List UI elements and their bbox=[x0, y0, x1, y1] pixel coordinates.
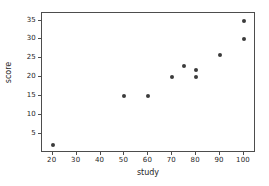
y-tick-mark bbox=[38, 20, 41, 21]
x-tick-label: 40 bbox=[88, 156, 112, 164]
x-tick-label: 60 bbox=[135, 156, 159, 164]
x-tick-label: 20 bbox=[40, 156, 64, 164]
data-point bbox=[122, 94, 126, 98]
y-tick-label: 25 bbox=[14, 53, 36, 61]
y-axis-label: score bbox=[4, 43, 13, 103]
x-tick-mark bbox=[76, 152, 77, 155]
x-tick-label: 50 bbox=[111, 156, 135, 164]
data-point bbox=[170, 75, 174, 79]
data-point bbox=[218, 53, 222, 57]
data-point bbox=[51, 143, 55, 147]
data-point bbox=[194, 68, 198, 72]
y-tick-mark bbox=[38, 133, 41, 134]
y-tick-label: 35 bbox=[14, 16, 36, 24]
y-tick-mark bbox=[38, 76, 41, 77]
data-point bbox=[242, 19, 246, 23]
x-tick-mark bbox=[100, 152, 101, 155]
y-tick-label: 5 bbox=[14, 129, 36, 137]
x-tick-label: 80 bbox=[183, 156, 207, 164]
y-tick-mark bbox=[38, 38, 41, 39]
plot-axes-frame bbox=[41, 12, 255, 152]
x-tick-mark bbox=[52, 152, 53, 155]
x-tick-mark bbox=[219, 152, 220, 155]
y-tick-label: 30 bbox=[14, 34, 36, 42]
scatter-plot-figure: 2030405060708090100 5101520253035 study … bbox=[0, 0, 269, 186]
x-axis-label: study bbox=[41, 168, 255, 177]
plot-data-area bbox=[42, 13, 254, 151]
x-tick-label: 30 bbox=[64, 156, 88, 164]
y-tick-label: 15 bbox=[14, 91, 36, 99]
x-tick-label: 90 bbox=[207, 156, 231, 164]
y-tick-mark bbox=[38, 95, 41, 96]
data-point bbox=[146, 94, 150, 98]
data-point bbox=[182, 64, 186, 68]
y-tick-label: 10 bbox=[14, 110, 36, 118]
x-tick-mark bbox=[243, 152, 244, 155]
x-tick-label: 100 bbox=[231, 156, 255, 164]
data-point bbox=[242, 37, 246, 41]
y-tick-mark bbox=[38, 57, 41, 58]
x-tick-mark bbox=[195, 152, 196, 155]
x-tick-label: 70 bbox=[159, 156, 183, 164]
x-tick-mark bbox=[171, 152, 172, 155]
y-tick-mark bbox=[38, 114, 41, 115]
x-tick-mark bbox=[147, 152, 148, 155]
data-point bbox=[194, 75, 198, 79]
y-tick-label: 20 bbox=[14, 72, 36, 80]
x-tick-mark bbox=[123, 152, 124, 155]
